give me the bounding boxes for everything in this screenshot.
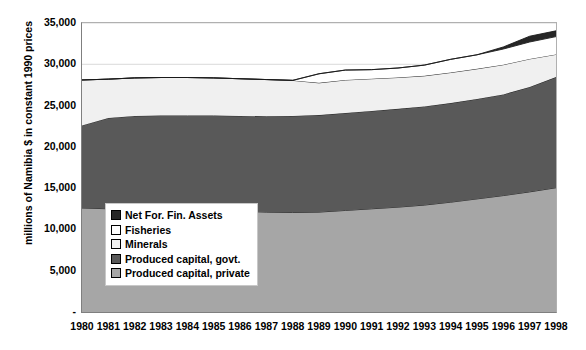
y-axis-tick-label: 30,000 bbox=[24, 58, 76, 68]
x-axis-tick-label: 1998 bbox=[536, 320, 576, 332]
y-axis-tick-label: 20,000 bbox=[24, 141, 76, 151]
chart-legend: Net For. Fin. AssetsFisheriesMineralsPro… bbox=[105, 203, 258, 286]
y-axis-tick-label: 35,000 bbox=[24, 17, 76, 27]
legend-item-label: Net For. Fin. Assets bbox=[125, 209, 223, 221]
legend-item: Fisheries bbox=[111, 223, 250, 238]
legend-item-label: Minerals bbox=[125, 238, 168, 250]
y-axis-tick-label: 10,000 bbox=[24, 223, 76, 233]
x-axis-tick-labels: 1980198119821983198419851986198719881989… bbox=[81, 320, 557, 342]
legend-item: Minerals bbox=[111, 237, 250, 252]
legend-swatch-icon bbox=[111, 210, 121, 220]
y-axis-tick-label: 15,000 bbox=[24, 182, 76, 192]
legend-item-label: Produced capital, private bbox=[125, 267, 250, 279]
y-axis-tick-labels: 35,00030,00025,00020,00015,00010,0005,00… bbox=[20, 0, 76, 350]
y-axis-tick-label: 5,000 bbox=[24, 265, 76, 275]
legend-item: Produced capital, private bbox=[111, 266, 250, 281]
legend-swatch-icon bbox=[111, 268, 121, 278]
legend-item: Produced capital, govt. bbox=[111, 252, 250, 267]
y-axis-tick-label: 25,000 bbox=[24, 100, 76, 110]
legend-item: Net For. Fin. Assets bbox=[111, 208, 250, 223]
legend-item-label: Produced capital, govt. bbox=[125, 253, 241, 265]
legend-swatch-icon bbox=[111, 239, 121, 249]
y-axis-tick-label: - bbox=[24, 306, 76, 316]
chart-figure: millions of Namibia $ in constant 1990 p… bbox=[0, 0, 586, 350]
legend-swatch-icon bbox=[111, 254, 121, 264]
legend-swatch-icon bbox=[111, 225, 121, 235]
legend-item-label: Fisheries bbox=[125, 224, 171, 236]
